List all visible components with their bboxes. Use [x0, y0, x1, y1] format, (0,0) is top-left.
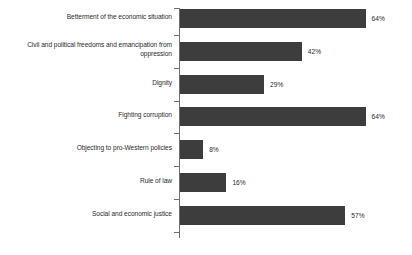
axis-tick: [174, 68, 179, 69]
bar-row: Civil and political freedoms and emancip…: [0, 42, 412, 61]
category-label: Fighting corruption: [0, 111, 172, 120]
bar-row: Objecting to pro-Western policies8%: [0, 140, 412, 159]
bar-value-label: 57%: [351, 211, 364, 220]
bar-chart: Betterment of the economic situation64%C…: [0, 0, 412, 255]
category-label: Social and economic justice: [0, 210, 172, 219]
category-label: Objecting to pro-Western policies: [0, 144, 172, 153]
bar-value-label: 64%: [372, 14, 385, 23]
bar-row: Rule of law16%: [0, 173, 412, 192]
bar: [180, 75, 264, 94]
bar-value-label: 16%: [232, 178, 245, 187]
bar-value-label: 42%: [308, 47, 321, 56]
axis-tick: [174, 35, 179, 36]
category-label-line: oppression: [0, 50, 172, 59]
axis-tick: [174, 101, 179, 102]
bar: [180, 42, 302, 61]
bar: [180, 206, 345, 225]
bar-row: Dignity29%: [0, 75, 412, 94]
bar-row: Social and economic justice57%: [0, 206, 412, 225]
bar: [180, 107, 366, 126]
category-label: Civil and political freedoms and emancip…: [0, 41, 172, 58]
axis-tick: [174, 199, 179, 200]
bar: [180, 173, 226, 192]
bar-value-label: 29%: [270, 80, 283, 89]
axis-tick: [174, 133, 179, 134]
bar: [180, 140, 203, 159]
bar-value-label: 8%: [209, 145, 219, 154]
category-label: Betterment of the economic situation: [0, 13, 172, 22]
axis-tick: [174, 166, 179, 167]
bar-value-label: 64%: [372, 112, 385, 121]
category-label-line: Civil and political freedoms and emancip…: [0, 41, 172, 50]
bar: [180, 9, 366, 28]
source-note: [3, 250, 183, 255]
bar-row: Fighting corruption64%: [0, 107, 412, 126]
category-label: Dignity: [0, 79, 172, 88]
bar-row: Betterment of the economic situation64%: [0, 9, 412, 28]
category-label: Rule of law: [0, 177, 172, 186]
plot-area: Betterment of the economic situation64%C…: [0, 0, 412, 240]
axis-tick: [174, 232, 179, 233]
